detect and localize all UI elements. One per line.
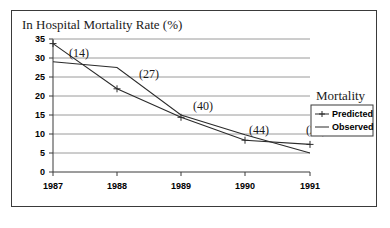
y-tick-label: 35 bbox=[35, 34, 45, 44]
x-tick-label: 1991 bbox=[300, 181, 320, 191]
line-chart: 35 30 25 20 15 10 5 0 1987 1988 1989 199… bbox=[11, 10, 377, 207]
y-tick-label: 0 bbox=[40, 167, 45, 177]
series-observed bbox=[53, 62, 310, 153]
x-tick-label: 1988 bbox=[107, 181, 127, 191]
annotation-label: (44) bbox=[249, 123, 269, 137]
y-tick-label: 30 bbox=[35, 53, 45, 63]
series-predicted bbox=[50, 40, 314, 148]
legend-label-predicted: Predicted bbox=[332, 109, 373, 119]
legend[interactable]: Mortality Predicted Observed bbox=[311, 88, 374, 136]
legend-title: Mortality bbox=[316, 88, 366, 103]
y-tick-label: 20 bbox=[35, 91, 45, 101]
y-tick-label: 10 bbox=[35, 129, 45, 139]
x-tickmarks bbox=[53, 172, 310, 176]
y-tick-label: 5 bbox=[40, 148, 45, 158]
annotation-label: (40) bbox=[193, 99, 213, 113]
y-tick-label: 25 bbox=[35, 72, 45, 82]
x-tick-label: 1987 bbox=[43, 181, 63, 191]
x-axis-labels: 1987 1988 1989 1990 1991 bbox=[43, 181, 320, 191]
y-gridlines bbox=[53, 39, 310, 153]
y-tick-label: 15 bbox=[35, 110, 45, 120]
x-tick-label: 1989 bbox=[171, 181, 191, 191]
series-predicted-markers bbox=[50, 40, 314, 148]
figure-container: In Hospital Mortality Rate (%) bbox=[0, 0, 390, 228]
annotation-label: (14) bbox=[69, 46, 89, 60]
annotation-label: (27) bbox=[139, 67, 159, 81]
legend-label-observed: Observed bbox=[332, 122, 374, 132]
y-axis-labels: 35 30 25 20 15 10 5 0 bbox=[35, 34, 45, 177]
x-tick-label: 1990 bbox=[235, 181, 255, 191]
y-tickmarks bbox=[49, 39, 53, 172]
